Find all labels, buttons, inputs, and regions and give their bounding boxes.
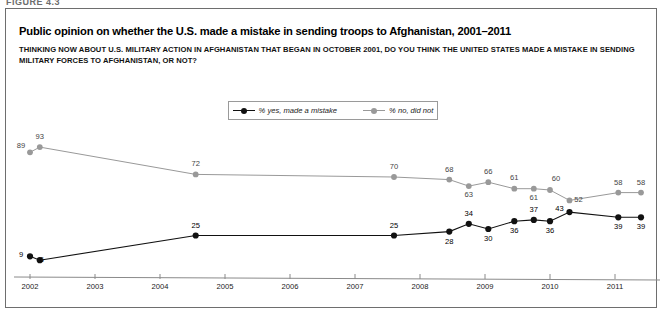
x-axis-tick-label: 2005 xyxy=(217,282,234,291)
data-labels-no: 89937270686366616160525858 xyxy=(17,132,645,204)
data-point-label: 43 xyxy=(555,204,563,213)
x-axis-tick-label: 2007 xyxy=(347,282,364,291)
data-point-label: 9 xyxy=(19,250,23,259)
data-point-label: 89 xyxy=(17,141,25,150)
data-point-label: 66 xyxy=(484,167,492,176)
data-point-marker xyxy=(485,226,491,232)
data-point-label: 70 xyxy=(390,162,398,171)
data-point-marker xyxy=(547,218,553,224)
x-axis-line xyxy=(14,277,660,280)
data-point-label: 60 xyxy=(552,174,560,183)
x-axis-tick-label: 2002 xyxy=(22,282,39,291)
data-point-marker xyxy=(27,253,33,259)
x-axis-tick-label: 2008 xyxy=(412,282,429,291)
data-point-label: 36 xyxy=(510,226,518,235)
data-point-marker xyxy=(466,221,472,227)
data-point-label: 61 xyxy=(510,173,518,182)
data-point-marker xyxy=(193,232,199,238)
series-yes-made-mistake xyxy=(27,209,644,263)
data-point-marker xyxy=(511,218,517,224)
data-point-marker xyxy=(446,229,452,235)
x-axis-tick-label: 2004 xyxy=(152,282,169,291)
data-point-marker xyxy=(547,187,553,193)
data-point-label: 25 xyxy=(191,221,199,230)
data-point-marker xyxy=(466,183,472,189)
data-point-marker xyxy=(567,198,573,204)
data-point-label: 61 xyxy=(530,193,538,202)
data-point-marker xyxy=(511,186,517,192)
data-point-label: 36 xyxy=(546,226,554,235)
line-chart-svg: 2002200320042005200620072008200920102011… xyxy=(0,0,664,310)
data-point-marker xyxy=(27,149,33,155)
data-labels-yes: 962525283430363736433939 xyxy=(19,204,645,264)
data-point-marker xyxy=(638,190,644,196)
data-point-label: 37 xyxy=(530,205,538,214)
plot-area: 2002200320042005200620072008200920102011… xyxy=(0,0,664,310)
data-point-label: 63 xyxy=(465,190,473,199)
data-point-marker xyxy=(531,217,537,223)
data-point-label: 58 xyxy=(614,178,622,187)
figure-container: FIGURE 4.3 Public opinion on whether the… xyxy=(0,0,664,310)
x-axis-tick-label: 2009 xyxy=(477,282,494,291)
x-axis-tick-labels: 2002200320042005200620072008200920102011 xyxy=(22,282,624,291)
x-axis-tick-label: 2003 xyxy=(87,282,104,291)
data-point-marker xyxy=(485,179,491,185)
x-axis-tick-label: 2011 xyxy=(607,282,623,291)
data-point-marker xyxy=(615,214,621,220)
x-axis-tick-label: 2010 xyxy=(542,282,559,291)
data-point-label: 34 xyxy=(465,209,473,218)
data-point-marker xyxy=(193,172,199,178)
data-point-marker xyxy=(566,209,572,215)
data-point-label: 72 xyxy=(191,159,199,168)
data-point-marker xyxy=(638,214,644,220)
data-point-marker xyxy=(531,186,537,192)
data-point-label: 6 xyxy=(40,255,44,264)
data-point-marker xyxy=(391,232,397,238)
data-point-marker xyxy=(615,190,621,196)
data-point-label: 30 xyxy=(484,234,492,243)
data-point-label: 52 xyxy=(574,195,582,204)
axis-group: 2002200320042005200620072008200920102011 xyxy=(14,274,660,291)
data-point-label: 93 xyxy=(36,132,44,141)
data-point-label: 28 xyxy=(445,237,453,246)
data-point-label: 39 xyxy=(614,222,622,231)
data-point-label: 68 xyxy=(445,165,453,174)
data-point-marker xyxy=(446,177,452,183)
data-point-label: 39 xyxy=(637,222,645,231)
x-axis-tick-label: 2006 xyxy=(282,282,299,291)
data-point-label: 58 xyxy=(637,178,645,187)
data-point-marker xyxy=(37,144,43,150)
data-point-marker xyxy=(391,174,397,180)
data-point-label: 25 xyxy=(390,221,398,230)
